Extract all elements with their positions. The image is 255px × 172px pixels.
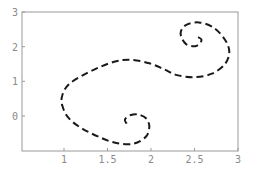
spiral-curve <box>61 22 229 144</box>
y-tick-label: 3 <box>12 7 18 18</box>
y-tick-label: 0 <box>12 111 18 122</box>
spiral-chart: 11.522.53 0123 <box>0 0 255 172</box>
y-tick-label: 1 <box>12 76 18 87</box>
x-tick-label: 1.5 <box>98 154 116 165</box>
x-tick-label: 1 <box>61 154 67 165</box>
plot-frame <box>22 12 238 151</box>
x-tick-label: 2 <box>148 154 154 165</box>
y-axis-ticks: 0123 <box>12 7 25 122</box>
x-tick-label: 3 <box>235 154 241 165</box>
y-tick-label: 2 <box>12 42 18 53</box>
x-tick-label: 2.5 <box>185 154 203 165</box>
